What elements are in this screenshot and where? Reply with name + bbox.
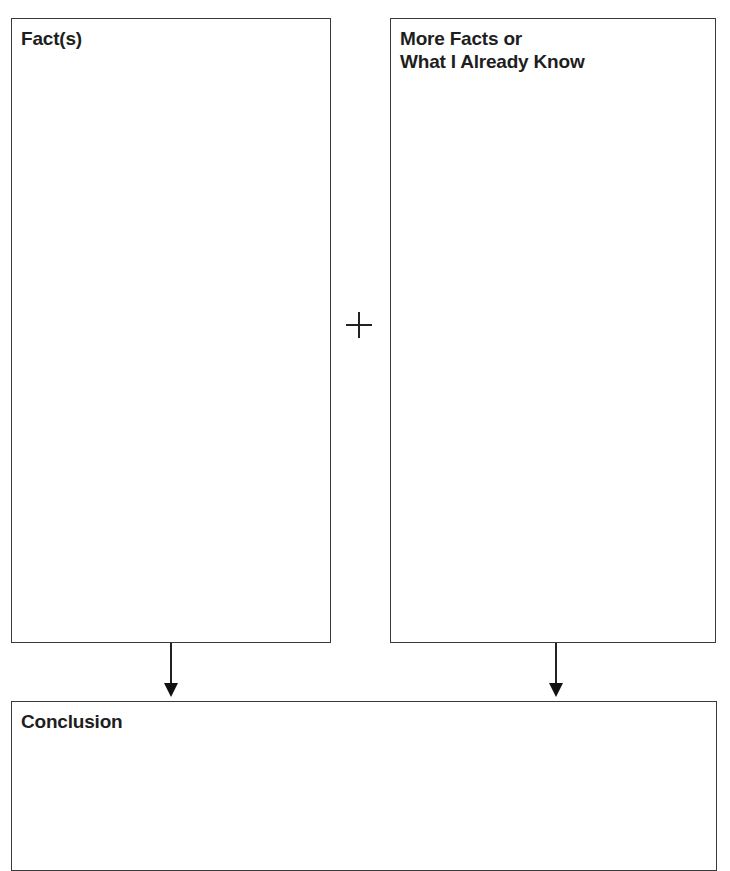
conclusion-box[interactable]: Conclusion: [11, 701, 717, 871]
arrow-shaft: [555, 643, 557, 687]
arrow-down-icon: [548, 643, 564, 698]
more-facts-title-line2: What I Already Know: [400, 50, 584, 73]
arrow-head: [164, 683, 178, 697]
arrow-down-icon: [163, 643, 179, 698]
plus-icon: [343, 309, 375, 341]
more-facts-title-line1: More Facts or: [400, 27, 584, 50]
more-facts-box-title: More Facts or What I Already Know: [400, 27, 584, 73]
conclusion-box-title: Conclusion: [21, 710, 122, 733]
fact-box[interactable]: Fact(s): [11, 18, 331, 643]
fact-box-title: Fact(s): [21, 27, 82, 50]
arrow-shaft: [170, 643, 172, 687]
arrow-head: [549, 683, 563, 697]
more-facts-box[interactable]: More Facts or What I Already Know: [390, 18, 716, 643]
